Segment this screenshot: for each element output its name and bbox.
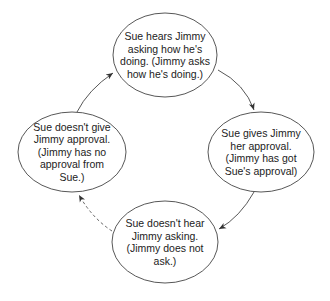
node-right-text: Sue gives Jimmy her approval. (Jimmy has… [213, 127, 309, 177]
node-right-label: Sue gives Jimmy her approval. (Jimmy has… [213, 117, 309, 187]
node-bottom-text: Sue doesn't hear Jimmy asking. (Jimmy do… [121, 217, 209, 267]
node-top-label: Sue hears Jimmy asking how he's doing. (… [118, 18, 212, 92]
node-left-text: Sue doesn't give Jimmy approval. (Jimmy … [28, 121, 116, 184]
node-bottom-label: Sue doesn't hear Jimmy asking. (Jimmy do… [121, 207, 209, 277]
edge-bottom-to-left [79, 195, 112, 231]
edge-right-to-bottom [219, 192, 254, 229]
node-top-text: Sue hears Jimmy asking how he's doing. (… [118, 30, 212, 80]
edge-top-to-right [218, 70, 254, 110]
node-left-label: Sue doesn't give Jimmy approval. (Jimmy … [28, 117, 116, 187]
edge-left-to-top [77, 73, 113, 112]
